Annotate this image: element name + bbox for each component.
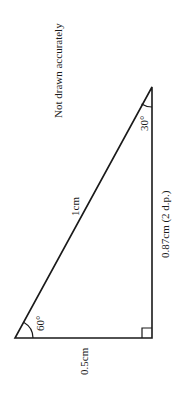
hypotenuse-label: 1cm [69, 197, 81, 216]
vertical-side-label: 0.87cm (2 d.p.) [159, 190, 172, 258]
triangle [15, 87, 152, 338]
top-angle-label: 30° [138, 116, 150, 131]
angle-arc-30 [142, 104, 153, 107]
right-angle-marker [142, 328, 152, 338]
base-label: 0.5cm [78, 347, 90, 375]
left-angle-label: 60° [34, 316, 46, 331]
note-text: Not drawn accurately [52, 23, 64, 118]
right-triangle-diagram: Not drawn accurately 30° 1cm 0.87cm (2 d… [0, 0, 180, 395]
angle-arc-60 [24, 322, 33, 338]
